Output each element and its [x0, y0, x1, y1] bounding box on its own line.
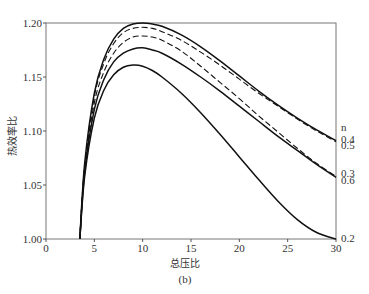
y-tick-label: 1.00 — [23, 233, 43, 245]
x-tick-label: 0 — [43, 242, 49, 254]
x-tick-label: 5 — [92, 242, 98, 254]
series-line-n-0-5 — [80, 27, 336, 239]
x-tick-label: 25 — [282, 242, 294, 254]
series-line-n-0-3 — [80, 36, 336, 239]
y-tick-label: 1.15 — [23, 71, 43, 83]
y-tick-label: 1.05 — [23, 179, 43, 191]
data-lines — [80, 23, 336, 239]
y-tick-label: 1.10 — [23, 125, 43, 137]
series-line-n-0-2 — [80, 65, 336, 239]
legend-label: 0.2 — [341, 232, 355, 244]
legend-label: 0.6 — [341, 174, 355, 186]
axis-labels: 0510152025301.001.051.101.151.20n0.40.50… — [6, 17, 355, 286]
legend-label: n — [341, 121, 347, 133]
y-axis-title: 热效率比 — [6, 116, 18, 156]
x-tick-label: 15 — [186, 242, 198, 254]
figure-subtitle: (b) — [179, 273, 192, 286]
y-tick-label: 1.20 — [23, 17, 43, 29]
x-tick-label: 10 — [137, 242, 149, 254]
x-axis-title: 总压比 — [170, 257, 200, 269]
series-line-n-0-6 — [80, 48, 336, 239]
plot-axes — [43, 23, 336, 242]
legend-label: 0.5 — [341, 139, 355, 151]
efficiency-ratio-chart: 0510152025301.001.051.101.151.20n0.40.50… — [0, 0, 369, 294]
series-line-n-0-4 — [80, 23, 336, 239]
x-tick-label: 20 — [234, 242, 246, 254]
